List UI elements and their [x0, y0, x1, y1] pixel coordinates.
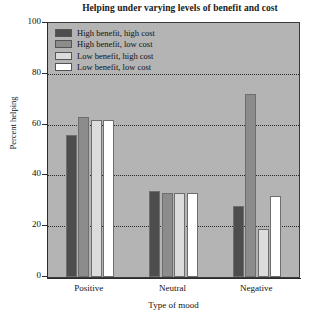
x-tick-label: Neutral	[133, 283, 213, 293]
y-tick-label: 100	[1, 16, 41, 26]
legend-label: High benefit, high cost	[77, 28, 155, 38]
y-axis-title: Percent helping	[8, 83, 18, 163]
bar	[149, 191, 160, 277]
x-axis-line	[47, 278, 301, 279]
bar-chart-figure: Helping under varying levels of benefit …	[0, 0, 320, 327]
bar	[91, 120, 102, 277]
y-tick-label: 20	[1, 219, 41, 229]
y-axis-line	[47, 22, 48, 279]
legend-item: High benefit, low cost	[55, 39, 155, 50]
y-tick-label: 80	[1, 67, 41, 77]
bar	[78, 117, 89, 277]
y-axis-tick-labels: 020406080100	[0, 22, 41, 279]
y-tick-label: 60	[1, 118, 41, 128]
y-tick-mark	[42, 124, 47, 125]
y-tick-label: 0	[1, 270, 41, 280]
x-axis-title: Type of mood	[47, 300, 300, 310]
bar	[174, 193, 185, 277]
bar	[233, 206, 244, 277]
bar	[187, 193, 198, 277]
legend-swatch	[55, 29, 72, 37]
bar	[66, 135, 77, 277]
legend-label: Low benefit, low cost	[77, 62, 151, 72]
x-tick-label: Positive	[49, 283, 129, 293]
legend-swatch	[55, 40, 72, 48]
legend-item: Low benefit, high cost	[55, 50, 155, 61]
y-tick-mark	[42, 225, 47, 226]
bar	[245, 94, 256, 277]
legend-label: High benefit, low cost	[77, 39, 153, 49]
chart-legend: High benefit, high costHigh benefit, low…	[53, 25, 158, 75]
legend-label: Low benefit, high cost	[77, 51, 153, 61]
legend-item: High benefit, high cost	[55, 27, 155, 38]
y-tick-mark	[42, 174, 47, 175]
bar	[103, 120, 114, 277]
y-tick-label: 40	[1, 168, 41, 178]
y-tick-mark	[42, 22, 47, 23]
legend-swatch	[55, 63, 72, 71]
y-tick-mark	[42, 73, 47, 74]
bar	[162, 193, 173, 277]
bar	[270, 196, 281, 277]
chart-title: Helping under varying levels of benefit …	[55, 3, 305, 13]
y-tick-mark	[42, 276, 47, 277]
legend-item: Low benefit, low cost	[55, 62, 155, 73]
legend-swatch	[55, 52, 72, 60]
bar	[258, 229, 269, 277]
x-tick-label: Negative	[216, 283, 296, 293]
